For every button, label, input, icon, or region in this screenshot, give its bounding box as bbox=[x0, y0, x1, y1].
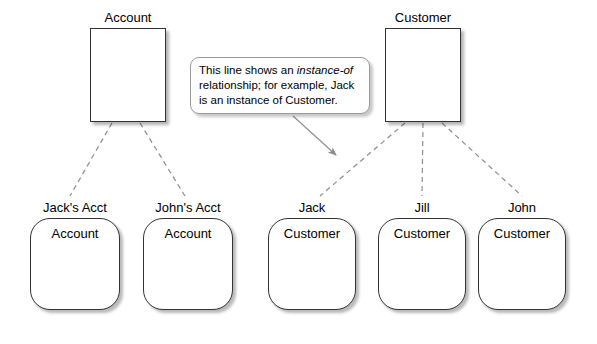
customer-class-title: Customer bbox=[385, 10, 461, 25]
edge-account-to-jacks-acct bbox=[70, 123, 112, 196]
instance-johns-acct-label: John's Acct bbox=[131, 200, 245, 215]
instance-jack-label: Jack bbox=[256, 200, 368, 215]
customer-class-body[interactable] bbox=[385, 28, 461, 122]
diagram-canvas: Account Customer This line shows an inst… bbox=[0, 0, 597, 344]
callout-text-before: This line shows an bbox=[199, 64, 297, 76]
callout-box[interactable]: This line shows an instance-of relations… bbox=[190, 57, 370, 114]
instance-john-type: Customer bbox=[478, 226, 566, 241]
edge-customer-to-john bbox=[442, 123, 522, 196]
instance-jill-label: Jill bbox=[366, 200, 478, 215]
account-class-body[interactable] bbox=[90, 28, 166, 122]
instance-johns-acct-type: Account bbox=[143, 226, 233, 241]
instance-jill-type: Customer bbox=[378, 226, 466, 241]
instance-jacks-acct-type: Account bbox=[30, 226, 120, 241]
edge-customer-to-jill bbox=[422, 123, 423, 196]
instance-jacks-acct-label: Jack's Acct bbox=[18, 200, 132, 215]
account-class-title: Account bbox=[90, 10, 166, 25]
callout-pointer-arrow bbox=[293, 116, 336, 155]
callout-text: This line shows an instance-of relations… bbox=[199, 63, 362, 108]
callout-text-after: relationship; for example, Jack is an in… bbox=[199, 79, 354, 106]
edge-customer-to-jack bbox=[320, 123, 405, 196]
instance-jack-type: Customer bbox=[268, 226, 356, 241]
edge-account-to-johns-acct bbox=[140, 123, 185, 196]
callout-emphasis: instance-of bbox=[297, 64, 353, 76]
instance-john-label: John bbox=[466, 200, 578, 215]
